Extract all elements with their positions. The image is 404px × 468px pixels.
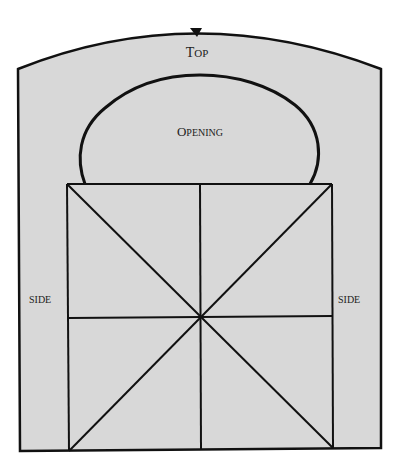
side-label-left: SIDE xyxy=(29,294,51,305)
opening-label: OPENING xyxy=(177,124,223,139)
pattern-diagram: TOP OPENING SIDE SIDE xyxy=(0,0,404,468)
top-label: TOP xyxy=(186,45,209,60)
side-label-right: SIDE xyxy=(338,294,360,305)
panel-right-edge xyxy=(332,184,333,448)
